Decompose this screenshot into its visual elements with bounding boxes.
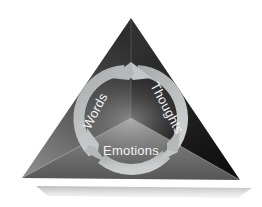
cognitive-triangle-diagram: Words Thoughts Emotions <box>0 0 262 207</box>
label-emotions: Emotions <box>103 143 159 158</box>
diagram-canvas: Words Thoughts Emotions <box>0 0 262 207</box>
triangle-drop-shadow <box>36 186 252 198</box>
